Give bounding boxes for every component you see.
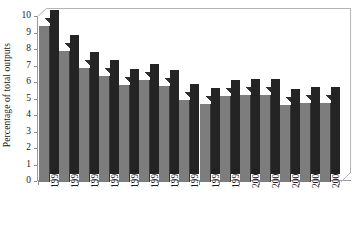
bar-front-face [59, 51, 70, 182]
y-axis-tick-label: 2 [26, 143, 31, 152]
y-axis-tick-mark [34, 16, 37, 17]
bar-1995 [139, 72, 159, 182]
bar-front-face [159, 86, 170, 182]
y-axis-tick-mark [34, 165, 37, 166]
y-axis-tick-label: 9 [26, 28, 31, 37]
bar-side-face [130, 69, 139, 174]
bar-side-face [50, 10, 59, 174]
bar-chart: Percentage of total outputs 109876543210… [0, 0, 359, 228]
bar-1993 [99, 68, 119, 182]
y-axis-tick-mark [34, 49, 37, 50]
y-axis-tick-mark [34, 33, 37, 34]
bars-layer [37, 8, 351, 182]
bar-side-face [110, 60, 119, 174]
bar-front-face [260, 95, 271, 182]
y-axis-tick-label: 6 [26, 77, 31, 86]
bar-side-face [170, 70, 179, 174]
bar-side-face [211, 88, 220, 174]
y-axis-tick-mark [34, 132, 37, 133]
y-axis-title: Percentage of total outputs [0, 0, 14, 190]
bar-front-face [240, 95, 251, 182]
y-axis-title-label: Percentage of total outputs [2, 43, 12, 147]
y-axis-tick-mark [34, 66, 37, 67]
bar-side-face [251, 79, 260, 174]
bar-2001 [260, 87, 280, 182]
bar-side-face [90, 52, 99, 174]
bar-side-face [231, 80, 240, 174]
bar-front-face [179, 100, 190, 182]
y-axis-tick-label: 4 [26, 110, 31, 119]
y-axis-tick-label: 10 [22, 11, 32, 20]
bar-front-face [99, 76, 110, 182]
y-axis-tick-mark [34, 82, 37, 83]
y-axis-tick-mark [34, 115, 37, 116]
y-axis-tick-label: 8 [26, 44, 31, 53]
bar-front-face [200, 104, 211, 182]
bar-front-face [220, 96, 231, 182]
y-axis-tick-label: 0 [26, 176, 31, 185]
bar-1990 [39, 18, 59, 182]
y-axis-tick-mark [34, 99, 37, 100]
bar-side-face [331, 87, 340, 174]
bar-front-face [280, 105, 291, 182]
bar-side-face [70, 35, 79, 174]
x-axis-tick-labels: 1990199119921993199419951996199719981999… [0, 186, 359, 228]
bar-1996 [159, 78, 179, 182]
y-axis-tick-label: 7 [26, 61, 31, 70]
bar-1992 [79, 60, 99, 182]
bar-side-face [311, 87, 320, 174]
y-axis-tick-label: 5 [26, 94, 31, 103]
bar-front-face [39, 26, 50, 182]
y-axis-tick-label: 3 [26, 127, 31, 136]
bar-front-face [79, 68, 90, 182]
x-axis-tick-label-text: 2004 [331, 169, 341, 188]
bar-front-face [300, 103, 311, 182]
bar-2000 [240, 87, 260, 182]
y-axis-tick-label: 1 [26, 160, 31, 169]
bar-1999 [220, 88, 240, 182]
bar-side-face [271, 79, 280, 174]
bar-side-face [291, 89, 300, 174]
bar-front-face [139, 80, 150, 182]
bar-1994 [119, 77, 139, 182]
bar-1991 [59, 43, 79, 182]
y-axis-tick-mark [34, 148, 37, 149]
bar-side-face [190, 84, 199, 174]
bar-front-face [119, 85, 130, 182]
x-axis-tick-mark [38, 181, 39, 185]
x-axis-tick-label-2004: 2004 [320, 186, 354, 222]
bar-side-face [150, 64, 159, 174]
bar-front-face [320, 103, 331, 182]
y-axis-tick-mark [34, 181, 37, 182]
